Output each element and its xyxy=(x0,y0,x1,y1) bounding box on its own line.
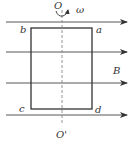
field-b-label: B xyxy=(112,65,120,76)
axis-top-label: O xyxy=(54,0,62,11)
corner-c-label: c xyxy=(19,103,25,114)
corner-a-label: a xyxy=(96,24,102,35)
omega-label: ω xyxy=(76,4,84,15)
coil-abcd xyxy=(31,28,92,109)
coil-in-magnetic-field-diagram: O ω b a B c d O' xyxy=(0,0,137,145)
axis-bottom-label: O' xyxy=(56,129,67,140)
corner-d-label: d xyxy=(95,104,101,115)
magnetic-field-lines xyxy=(6,22,127,115)
corner-b-label: b xyxy=(20,24,26,35)
